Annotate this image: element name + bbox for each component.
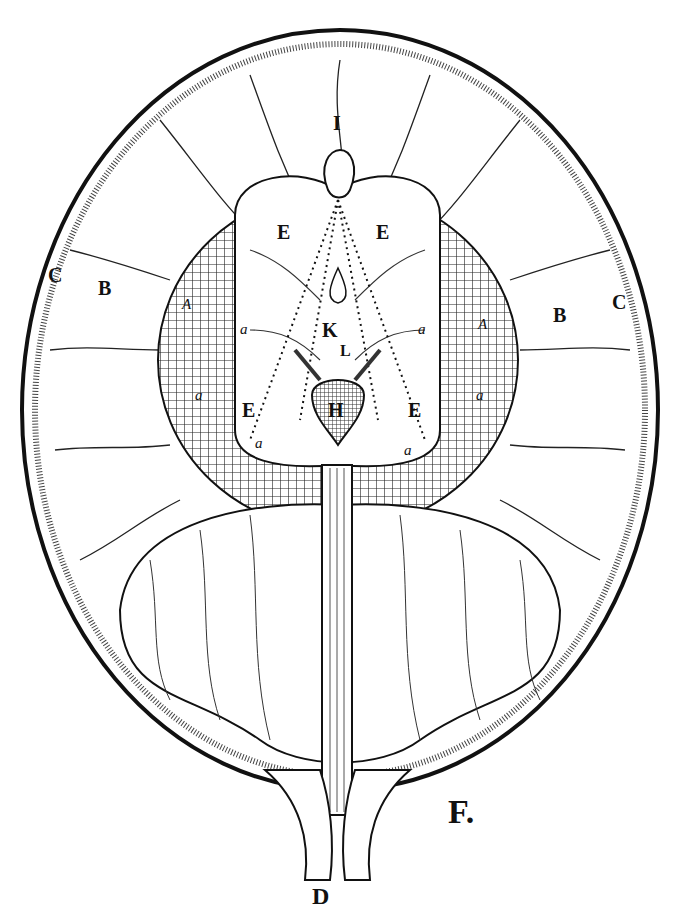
label-L: L [340, 343, 351, 359]
brain-illustration [0, 0, 676, 922]
label-B-right: B [553, 305, 566, 325]
figure-caption: F. [448, 795, 474, 829]
label-C-left: C [48, 265, 62, 285]
label-A-left: A [182, 297, 191, 312]
label-a-3: a [195, 388, 203, 403]
label-a-6: a [404, 443, 412, 458]
label-I: I [333, 113, 341, 133]
label-a-5: a [255, 436, 263, 451]
label-B-left: B [98, 278, 111, 298]
label-E-lower-right: E [408, 400, 421, 420]
label-H: H [328, 400, 344, 420]
label-a-1: a [240, 322, 248, 337]
label-E-lower-left: E [242, 400, 255, 420]
label-a-4: a [476, 388, 484, 403]
label-K: K [322, 320, 338, 340]
label-E-upper-left: E [277, 222, 290, 242]
label-C-right: C [612, 292, 626, 312]
label-D: D [312, 884, 329, 908]
label-a-2: a [418, 322, 426, 337]
label-A-right: A [478, 317, 487, 332]
label-E-upper-right: E [376, 222, 389, 242]
